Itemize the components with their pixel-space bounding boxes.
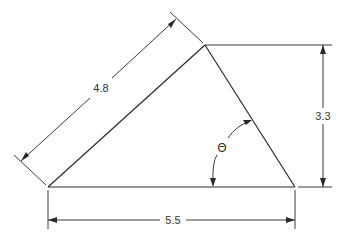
dim-label-5-5: 5.5 [165, 214, 180, 226]
arrowhead-icon [243, 120, 252, 125]
left-side [48, 45, 205, 187]
dimension-3-3: 3.3 [315, 45, 330, 187]
slant-upper-extension [170, 12, 203, 43]
dim-label-4-8: 4.8 [93, 82, 108, 94]
triangle [48, 45, 295, 187]
slant-dim-line-lower [21, 98, 90, 161]
arrowhead-icon [210, 178, 216, 187]
theta-label: Θ [217, 141, 226, 155]
angle-theta: Θ [210, 120, 252, 187]
extension-lines [14, 12, 332, 229]
triangle-diagram: 4.8 3.3 5.5 Θ [0, 0, 344, 243]
right-side [205, 45, 295, 187]
arrowhead-icon [168, 19, 176, 28]
slant-dim-line-upper [112, 19, 176, 78]
arrowhead-icon [21, 152, 29, 161]
dim-label-3-3: 3.3 [315, 110, 330, 122]
slant-lower-extension [14, 155, 46, 185]
arrowhead-icon [320, 178, 326, 187]
arrowhead-icon [48, 217, 57, 223]
dimension-4-8: 4.8 [21, 19, 176, 161]
dimension-5-5: 5.5 [48, 214, 295, 226]
arrowhead-icon [286, 217, 295, 223]
arrowhead-icon [320, 45, 326, 54]
